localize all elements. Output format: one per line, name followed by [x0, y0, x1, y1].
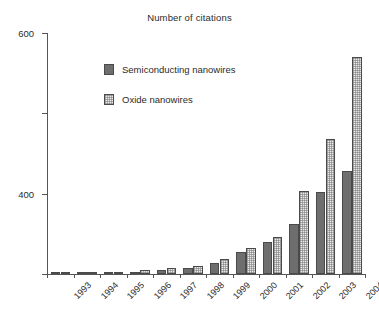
- bar-oxide: [61, 272, 71, 274]
- bar-oxide: [246, 248, 256, 275]
- chart-title: Number of citations: [0, 12, 379, 23]
- x-axis-tick-label: 1995: [125, 280, 146, 301]
- x-axis-tick-label: 1993: [72, 280, 93, 301]
- x-axis-tick: [127, 274, 128, 278]
- y-axis-tick-label: 400: [18, 188, 34, 199]
- bar-semiconducting: [157, 270, 167, 274]
- x-axis-tick: [206, 274, 207, 278]
- bar-group: [47, 33, 74, 274]
- x-axis-tick: [233, 274, 234, 278]
- bar-semiconducting: [289, 224, 299, 274]
- bar-oxide: [299, 191, 309, 274]
- bar-oxide: [352, 57, 362, 274]
- bar-semiconducting: [51, 272, 61, 274]
- bar-group: [312, 33, 339, 274]
- bar-semiconducting: [210, 263, 220, 274]
- bar-oxide: [140, 270, 150, 274]
- bar-oxide: [220, 259, 230, 274]
- bar-group: [127, 33, 154, 274]
- x-axis-tick: [47, 274, 48, 278]
- x-axis-tick-label: 1997: [178, 280, 199, 301]
- bar-group: [206, 33, 233, 274]
- x-axis-tick: [365, 274, 366, 278]
- x-axis-tick: [180, 274, 181, 278]
- x-axis-tick: [100, 274, 101, 278]
- bar-semiconducting: [263, 242, 273, 274]
- x-axis-tick-label: 2001: [284, 280, 305, 301]
- plot-area: 0200400600 19931994199519961997199819992…: [47, 33, 365, 274]
- bar-group: [180, 33, 207, 274]
- x-axis-tick-label: 1998: [204, 280, 225, 301]
- bar-group: [74, 33, 101, 274]
- bar-group: [100, 33, 127, 274]
- bar-oxide: [193, 266, 203, 274]
- bar-semiconducting: [236, 252, 246, 274]
- x-axis-tick: [286, 274, 287, 278]
- bar-semiconducting: [130, 272, 140, 274]
- bar-oxide: [167, 268, 177, 274]
- bar-oxide: [87, 272, 97, 274]
- bar-oxide: [326, 139, 336, 274]
- y-axis-tick-label: 600: [18, 28, 34, 39]
- x-axis-tick: [259, 274, 260, 278]
- bar-semiconducting: [77, 272, 87, 274]
- x-axis-tick: [153, 274, 154, 278]
- bar-oxide: [114, 272, 124, 274]
- bar-group: [153, 33, 180, 274]
- bar-semiconducting: [316, 192, 326, 274]
- x-axis-tick-label: 2004: [363, 280, 379, 301]
- bar-group: [233, 33, 260, 274]
- citations-bar-chart: Number of citations Semiconducting nanow…: [0, 0, 379, 328]
- x-axis-tick-label: 1994: [98, 280, 119, 301]
- bar-semiconducting: [342, 171, 352, 274]
- bar-oxide: [273, 237, 283, 274]
- x-axis-tick: [339, 274, 340, 278]
- x-axis-tick-label: 2002: [310, 280, 331, 301]
- x-axis-tick: [74, 274, 75, 278]
- x-axis-tick-label: 1999: [231, 280, 252, 301]
- x-axis-tick-label: 2000: [257, 280, 278, 301]
- x-axis-tick-label: 1996: [151, 280, 172, 301]
- bar-group: [286, 33, 313, 274]
- bar-group: [339, 33, 366, 274]
- bar-semiconducting: [183, 268, 193, 274]
- x-axis-tick: [312, 274, 313, 278]
- bar-semiconducting: [104, 272, 114, 274]
- x-axis-tick-label: 2003: [337, 280, 358, 301]
- bar-group: [259, 33, 286, 274]
